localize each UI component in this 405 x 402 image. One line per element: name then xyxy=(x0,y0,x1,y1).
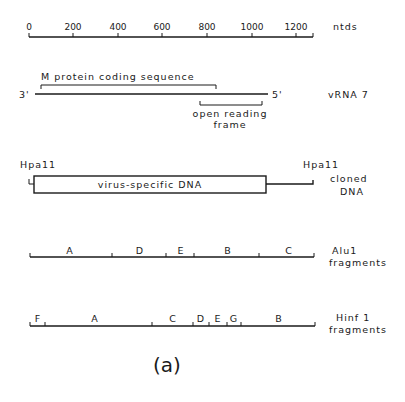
cloned-label-line1: cloned xyxy=(330,173,368,184)
scale-tick-label: 200 xyxy=(64,22,81,32)
vrna-label: vRNA 7 xyxy=(328,89,369,100)
hinf1-fragment-label: D xyxy=(197,313,205,324)
hinf1-fragment-label: E xyxy=(214,313,221,324)
scale-tick-label: 400 xyxy=(109,22,126,32)
cloned-label-line2: DNA xyxy=(340,186,364,197)
scale-tick-label: 1200 xyxy=(285,22,308,32)
alu1-label-line2: fragments xyxy=(329,257,387,268)
virus-specific-dna-label: virus-specific DNA xyxy=(98,179,202,190)
scale-bar: 0 200 400 600 800 1000 1200 ntds xyxy=(26,21,358,37)
orf-label-line2: frame xyxy=(213,119,246,130)
scale-tick-label: 1000 xyxy=(241,22,264,32)
hinf1-fragment-label: G xyxy=(230,313,238,324)
scale-tick-label: 0 xyxy=(26,22,32,32)
alu1-fragment-label: D xyxy=(136,245,144,256)
alu1-fragment-label: E xyxy=(177,245,184,256)
hpa-site-right-label: Hpa11 xyxy=(303,159,339,170)
hpa-site-left-label: Hpa11 xyxy=(20,159,56,170)
vector-line xyxy=(266,180,313,184)
scale-unit-label: ntds xyxy=(333,21,358,32)
orf-bracket xyxy=(200,101,262,105)
hinf1-fragment-label: A xyxy=(91,313,99,324)
orf-label-line1: open reading xyxy=(193,108,268,119)
alu1-label-line1: Alu1 xyxy=(332,245,357,256)
scale-tick-label: 800 xyxy=(198,22,215,32)
panel-label: (a) xyxy=(153,353,181,377)
hinf1-label-line2: fragments xyxy=(329,324,387,335)
cloned-dna-map: Hpa11 Hpa11 virus-specific DNA cloned DN… xyxy=(20,159,368,197)
m-protein-label: M protein coding sequence xyxy=(41,71,195,82)
hinf1-fragment-label: B xyxy=(275,313,283,324)
scale-tick-label: 600 xyxy=(153,22,170,32)
vrna-7-map: M protein coding sequence 3' 5' vRNA 7 o… xyxy=(19,71,369,130)
hinf1-fragment-label: F xyxy=(35,313,41,324)
alu1-fragment-map: A D E B C Alu1 fragments xyxy=(30,245,387,268)
alu1-fragment-label: B xyxy=(224,245,232,256)
hinf1-fragment-map: F A C D E G B Hinf 1 fragments xyxy=(30,312,387,335)
alu1-fragment-label: A xyxy=(66,245,74,256)
hpa-site-left-tick xyxy=(29,179,34,184)
alu1-fragment-label: C xyxy=(285,245,293,256)
hinf1-fragment-label: C xyxy=(169,313,177,324)
hinf1-label-line1: Hinf 1 xyxy=(336,312,370,323)
five-prime-end-label: 5' xyxy=(272,89,283,100)
m-protein-bracket xyxy=(41,85,216,89)
three-prime-end-label: 3' xyxy=(19,89,30,100)
restriction-map-diagram: 0 200 400 600 800 1000 1200 ntds M prote… xyxy=(0,0,405,402)
